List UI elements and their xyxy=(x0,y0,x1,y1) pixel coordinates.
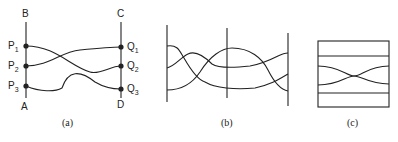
crossing-strand-lower xyxy=(318,76,389,85)
label-q3: Q3 xyxy=(127,83,139,96)
label-q2: Q2 xyxy=(127,60,139,73)
point-q2 xyxy=(118,63,123,68)
point-p2 xyxy=(23,63,28,68)
label-d: D xyxy=(117,99,124,110)
panel-a: B C A D P1 P2 P3 Q1 Q2 Q3 (a) xyxy=(8,8,139,129)
panel-b: (b) xyxy=(167,25,288,129)
outer-box xyxy=(318,41,389,107)
point-q3 xyxy=(118,86,123,91)
strand-p3-q3 xyxy=(26,74,121,91)
caption-b: (b) xyxy=(221,117,233,129)
caption-c: (c) xyxy=(347,117,358,129)
label-p3: P3 xyxy=(8,80,19,93)
point-p1 xyxy=(23,43,28,48)
label-p1: P1 xyxy=(8,40,19,53)
point-q1 xyxy=(118,44,123,49)
strand-p2-q1 xyxy=(26,47,121,66)
strand-p1-q2 xyxy=(26,46,121,73)
label-p2: P2 xyxy=(8,60,19,73)
crossing-strand-upper xyxy=(318,66,389,76)
braid-diagram-figure: B C A D P1 P2 P3 Q1 Q2 Q3 (a) (b) (c) xyxy=(0,0,398,142)
label-a: A xyxy=(21,101,28,112)
panel-c: (c) xyxy=(318,41,389,129)
label-b: B xyxy=(22,8,29,19)
caption-a: (a) xyxy=(62,117,73,129)
label-c: C xyxy=(117,8,124,19)
point-p3 xyxy=(23,83,28,88)
label-q1: Q1 xyxy=(127,41,139,54)
